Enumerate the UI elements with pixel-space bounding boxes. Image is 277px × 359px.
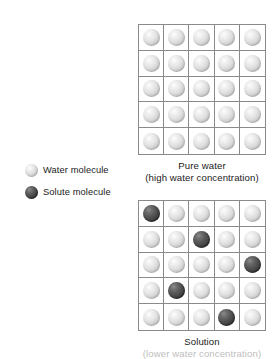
water-molecule-sphere-icon: [244, 282, 261, 299]
grid-cell: [215, 227, 240, 253]
water-molecule-sphere-icon: [218, 80, 235, 97]
grid-cell: [215, 102, 240, 128]
water-molecule-sphere-icon: [244, 309, 261, 326]
water-molecule-sphere-icon: [168, 55, 185, 72]
water-molecule-sphere-icon: [244, 231, 261, 248]
grid-cell: [240, 278, 265, 304]
grid-cell: [189, 278, 214, 304]
solute-molecule-sphere-icon: [218, 309, 235, 326]
water-molecule-sphere-icon: [143, 55, 160, 72]
water-molecule-sphere-icon: [143, 309, 160, 326]
water-molecule-sphere-icon: [244, 55, 261, 72]
grid-cell: [139, 227, 164, 253]
panel-caption-pure-water: Pure water (high water concentration): [138, 160, 266, 183]
grid-cell: [215, 128, 240, 154]
grid-cell: [189, 77, 214, 103]
water-molecule-sphere-icon: [193, 256, 210, 273]
water-molecule-sphere-icon: [244, 106, 261, 123]
water-molecule-sphere-icon: [168, 205, 185, 222]
water-molecule-sphere-icon: [244, 205, 261, 222]
water-molecule-sphere-icon: [143, 282, 160, 299]
grid-cell: [164, 253, 189, 279]
water-molecule-sphere-icon: [143, 133, 160, 150]
grid-cell: [240, 25, 265, 51]
water-molecule-sphere-icon: [168, 309, 185, 326]
water-molecule-sphere-icon: [168, 106, 185, 123]
water-molecule-sphere-icon: [218, 106, 235, 123]
water-molecule-sphere-icon: [218, 29, 235, 46]
grid-cell: [215, 304, 240, 330]
legend-item-water-molecule: Water molecule: [25, 160, 140, 180]
grid-cell: [139, 253, 164, 279]
grid-cell: [164, 278, 189, 304]
grid-cell: [139, 25, 164, 51]
grid-cell: [189, 128, 214, 154]
grid-cell: [164, 201, 189, 227]
water-molecule-sphere-icon: [193, 133, 210, 150]
water-molecule-sphere-icon: [218, 231, 235, 248]
grid-cell: [164, 25, 189, 51]
grid-cell: [164, 102, 189, 128]
grid-cell: [139, 201, 164, 227]
grid-cell: [164, 304, 189, 330]
water-molecule-sphere-icon: [218, 282, 235, 299]
water-molecule-sphere-icon: [218, 133, 235, 150]
water-molecule-sphere-icon: [168, 231, 185, 248]
water-molecule-sphere-icon: [143, 256, 160, 273]
grid-cell: [240, 77, 265, 103]
grid-cell: [215, 201, 240, 227]
water-molecule-sphere-icon: [193, 55, 210, 72]
water-molecule-sphere-icon: [218, 205, 235, 222]
caption-line: Pure water: [138, 160, 266, 172]
water-molecule-sphere-icon: [244, 29, 261, 46]
grid-cell: [215, 51, 240, 77]
water-molecule-sphere-icon: [168, 133, 185, 150]
water-molecule-sphere-icon: [168, 256, 185, 273]
panel-solution: Solution (lower water concentration): [138, 200, 266, 359]
grid-cell: [189, 201, 214, 227]
water-molecule-sphere-icon: [143, 80, 160, 97]
water-molecule-sphere-icon: [193, 205, 210, 222]
grid-cell: [164, 128, 189, 154]
grid-cell: [189, 102, 214, 128]
grid-cell: [240, 128, 265, 154]
grid-cell: [240, 201, 265, 227]
grid-cell: [215, 77, 240, 103]
grid-cell: [164, 51, 189, 77]
molecule-grid-pure-water: [138, 24, 266, 155]
molecule-grid-solution: [138, 200, 266, 331]
grid-cell: [240, 253, 265, 279]
grid-cell: [139, 278, 164, 304]
solute-molecule-sphere-icon: [168, 282, 185, 299]
grid-cell: [139, 304, 164, 330]
grid-cell: [139, 77, 164, 103]
water-molecule-sphere-icon: [193, 29, 210, 46]
caption-line: (high water concentration): [138, 172, 266, 184]
water-molecule-sphere-icon: [143, 231, 160, 248]
water-molecule-sphere-icon: [193, 309, 210, 326]
solute-molecule-sphere-icon: [244, 256, 261, 273]
water-molecule-sphere-icon: [193, 106, 210, 123]
solute-molecule-sphere-icon: [143, 205, 160, 222]
grid-cell: [240, 51, 265, 77]
water-molecule-sphere-icon: [193, 80, 210, 97]
solute-molecule-sphere-icon: [25, 186, 38, 199]
water-molecule-sphere-icon: [218, 256, 235, 273]
grid-cell: [240, 227, 265, 253]
water-molecule-sphere-icon: [143, 106, 160, 123]
water-molecule-sphere-icon: [244, 80, 261, 97]
legend-item-solute-molecule: Solute molecule: [25, 182, 140, 202]
water-molecule-sphere-icon: [218, 55, 235, 72]
legend-item-label: Water molecule: [43, 165, 109, 175]
grid-cell: [189, 227, 214, 253]
grid-cell: [164, 227, 189, 253]
grid-cell: [215, 253, 240, 279]
grid-cell: [164, 77, 189, 103]
water-molecule-sphere-icon: [168, 80, 185, 97]
grid-cell: [189, 25, 214, 51]
legend: Water molecule Solute molecule: [25, 160, 140, 204]
water-molecule-sphere-icon: [143, 29, 160, 46]
grid-cell: [240, 102, 265, 128]
caption-line-clipped: (lower water concentration): [138, 348, 266, 359]
